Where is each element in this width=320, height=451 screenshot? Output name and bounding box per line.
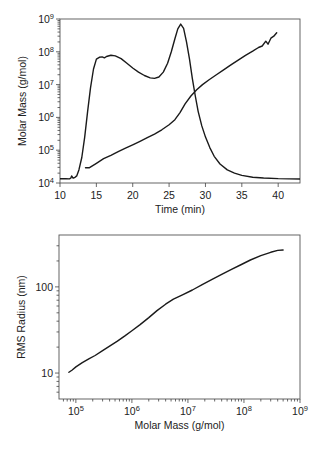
x-tick-label: 35 bbox=[236, 189, 248, 201]
y-tick-label: 10 bbox=[41, 367, 53, 379]
x-tick-label: 105 bbox=[68, 404, 84, 417]
plot-molar-mass-vs-time: 10152025303540104105106107108109Time (mi… bbox=[16, 12, 300, 215]
x-tick-label: 10 bbox=[54, 189, 66, 201]
x-axis-label: Molar Mass (g/mol) bbox=[135, 419, 225, 431]
figure: 10152025303540104105106107108109Time (mi… bbox=[0, 0, 320, 451]
x-tick-label: 40 bbox=[272, 189, 284, 201]
x-tick-label: 109 bbox=[292, 404, 308, 417]
y-tick-label: 107 bbox=[38, 78, 54, 91]
data-series-0 bbox=[69, 250, 283, 372]
chart-canvas: 10152025303540104105106107108109Time (mi… bbox=[0, 0, 320, 451]
y-tick-label: 104 bbox=[38, 176, 54, 189]
x-tick-label: 25 bbox=[163, 189, 175, 201]
data-series-1 bbox=[86, 33, 277, 168]
x-tick-label: 108 bbox=[236, 404, 252, 417]
x-tick-label: 20 bbox=[127, 189, 139, 201]
y-axis-label: Molar Mass (g/mol) bbox=[16, 56, 28, 146]
plot-frame bbox=[59, 235, 300, 399]
x-tick-label: 30 bbox=[200, 189, 212, 201]
y-tick-label: 105 bbox=[38, 143, 54, 156]
y-tick-label: 108 bbox=[38, 45, 54, 58]
x-tick-label: 15 bbox=[91, 189, 103, 201]
x-tick-label: 107 bbox=[180, 404, 196, 417]
y-tick-label: 109 bbox=[38, 12, 54, 25]
y-axis-label: RMS Radius (nm) bbox=[15, 275, 27, 358]
x-tick-label: 106 bbox=[124, 404, 140, 417]
data-series-0 bbox=[60, 24, 300, 179]
plot-rms-radius-vs-molar-mass: 10510610710810910100Molar Mass (g/mol)RM… bbox=[15, 235, 308, 431]
y-tick-label: 100 bbox=[35, 281, 53, 293]
x-axis-label: Time (min) bbox=[155, 203, 205, 215]
y-tick-label: 106 bbox=[38, 110, 54, 123]
